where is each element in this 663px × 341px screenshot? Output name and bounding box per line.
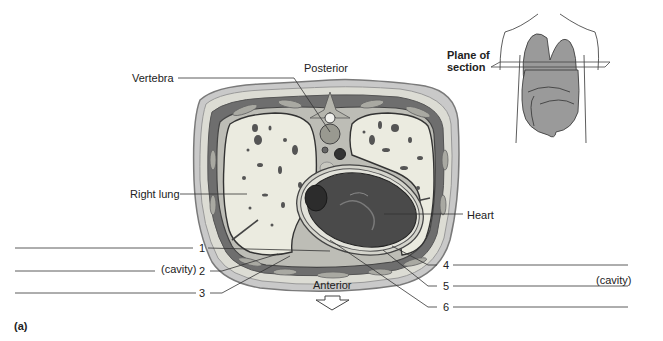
right-atrium [305,185,327,211]
vertebral-body [320,124,340,144]
blank-label-4-number: 4 [443,259,449,271]
label-heart: Heart [467,209,494,221]
anterior-arrow-icon [316,296,349,310]
blank-label-3-number: 3 [199,287,205,299]
blank-label-2-number: 2 [199,265,205,277]
blank-label-5-number: 5 [443,280,449,292]
inset-caption-line2: section [447,61,486,73]
orientation-posterior: Posterior [304,62,348,74]
inset-caption-line1: Plane of [447,49,490,61]
orientation-anterior: Anterior [313,279,352,291]
blank-label-5-suffix: (cavity) [596,274,631,286]
spinal-canal [325,113,335,123]
blank-label-6-number: 6 [443,301,449,313]
inset-torso [500,14,599,143]
esophagus [322,147,328,153]
aorta [335,149,346,160]
panel-label: (a) [14,320,27,332]
blank-label-2-suffix: (cavity) [161,263,196,275]
inset-abdomen [522,70,579,137]
label-right-lung: Right lung [130,188,180,200]
label-vertebra: Vertebra [132,72,174,84]
blank-label-1-number: 1 [199,242,205,254]
